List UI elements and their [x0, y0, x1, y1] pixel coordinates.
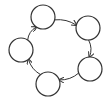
node-circle — [9, 38, 33, 62]
nodes-group — [9, 5, 102, 96]
cycle-diagram — [0, 0, 110, 104]
arrow-connector — [55, 20, 77, 25]
arrow-connector — [28, 27, 37, 40]
node-circle — [36, 72, 60, 96]
node-circle — [78, 57, 102, 81]
node-circle — [31, 5, 55, 29]
arrow-connector — [89, 40, 91, 57]
arrow-connector — [28, 59, 40, 74]
node-circle — [76, 16, 100, 40]
arrow-connector — [59, 73, 78, 80]
